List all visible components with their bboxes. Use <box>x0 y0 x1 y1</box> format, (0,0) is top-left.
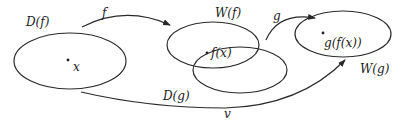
arrow-v-label: v <box>224 107 231 121</box>
range-g-ellipse <box>295 11 391 57</box>
point-x-dot <box>67 59 70 62</box>
range-f-ellipse <box>167 22 259 68</box>
arrow-g-label: g <box>273 9 281 23</box>
domain-f-label: D(f) <box>25 15 50 29</box>
point-gfx-label: g(f(x)) <box>324 36 362 50</box>
composition-diagram: D(f) x f W(f) D(g) f(x) g g(f(x)) W(g) v <box>0 0 409 122</box>
arrow-v <box>81 60 345 108</box>
range-f-label: W(f) <box>215 6 241 20</box>
point-gfx-dot <box>322 32 325 35</box>
point-fx-dot <box>206 52 209 55</box>
range-g-label: W(g) <box>360 62 390 76</box>
domain-g-label: D(g) <box>162 89 190 103</box>
point-fx-label: f(x) <box>210 46 232 60</box>
domain-f-ellipse <box>14 33 126 89</box>
arrow-f <box>82 15 170 27</box>
point-x-label: x <box>73 60 80 74</box>
